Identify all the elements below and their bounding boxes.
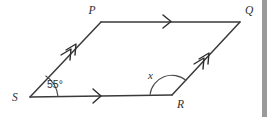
vertex-label-P: P [87, 4, 95, 16]
vertex-label-S: S [12, 91, 18, 103]
side-SP [30, 22, 101, 97]
angle-label-55-degrees: 55° [47, 78, 63, 90]
tick-mark-SP [61, 44, 76, 60]
vertex-label-Q: Q [245, 4, 254, 16]
vertex-label-R: R [176, 98, 184, 110]
angle-label-x: x [147, 69, 153, 81]
right-edge-gap [267, 0, 268, 117]
parallelogram-diagram: P Q R S 55° x [0, 0, 268, 117]
geometry-figure: P Q R S 55° x [0, 0, 268, 117]
side-QR [172, 22, 240, 95]
tick-mark-QR [194, 53, 209, 69]
